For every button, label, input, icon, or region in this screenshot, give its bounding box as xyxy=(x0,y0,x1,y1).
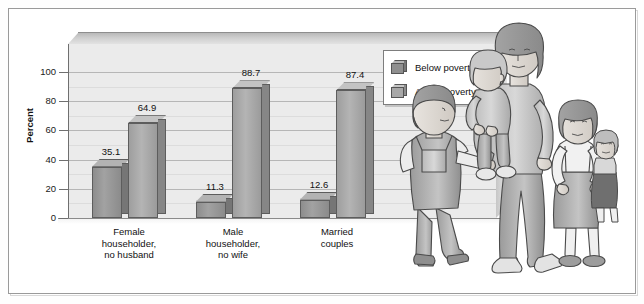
y-axis-tick-mark xyxy=(59,101,68,102)
category-label-line: householder, xyxy=(178,238,288,250)
bar-front-face xyxy=(300,200,330,218)
y-axis-line xyxy=(68,44,69,219)
y-axis-tick-mark xyxy=(59,72,68,73)
chart-figure: 100806040200 Percent 35.164.911.388.712.… xyxy=(0,0,644,304)
doll-figure xyxy=(591,130,618,222)
bar-front-face xyxy=(336,90,366,218)
category-label-line: householder, xyxy=(74,238,184,250)
y-axis-tick-mark xyxy=(59,189,68,190)
y-axis-label: Percent xyxy=(24,91,35,161)
category-label: Femalehouseholder,no husband xyxy=(74,226,184,261)
category-label-line: Married xyxy=(282,226,392,238)
bar-front-face xyxy=(92,167,122,218)
y-axis-tick-label: 20 xyxy=(30,184,56,194)
bar-value-label: 64.9 xyxy=(124,102,170,113)
category-label: Marriedcouples xyxy=(282,226,392,249)
y-axis-tick-mark xyxy=(59,218,68,219)
bar-above-poverty xyxy=(336,90,366,218)
bar-above-poverty xyxy=(128,123,158,218)
y-axis-tick-mark xyxy=(59,130,68,131)
family-illustration xyxy=(396,22,636,292)
bar-below-poverty xyxy=(196,202,226,218)
category-label-line: no husband xyxy=(74,249,184,261)
bar-value-label: 88.7 xyxy=(228,67,274,78)
category-label-line: Female xyxy=(74,226,184,238)
bar-front-face xyxy=(196,202,226,218)
category-label-line: no wife xyxy=(178,249,288,261)
bar-front-face xyxy=(232,88,262,218)
bar-below-poverty xyxy=(300,200,330,218)
category-label-line: couples xyxy=(282,238,392,250)
category-label: Malehouseholder,no wife xyxy=(178,226,288,261)
y-axis-tick-label: 100 xyxy=(30,67,56,77)
bar-side-face xyxy=(158,119,166,214)
bar-value-label: 87.4 xyxy=(332,69,378,80)
y-axis-tick-label: 0 xyxy=(30,213,56,223)
category-label-line: Male xyxy=(178,226,288,238)
bar-side-face xyxy=(262,84,270,214)
y-axis-tick-mark xyxy=(59,160,68,161)
bar-above-poverty xyxy=(232,88,262,218)
bar-below-poverty xyxy=(92,167,122,218)
bar-front-face xyxy=(128,123,158,218)
bar-side-face xyxy=(366,86,374,214)
